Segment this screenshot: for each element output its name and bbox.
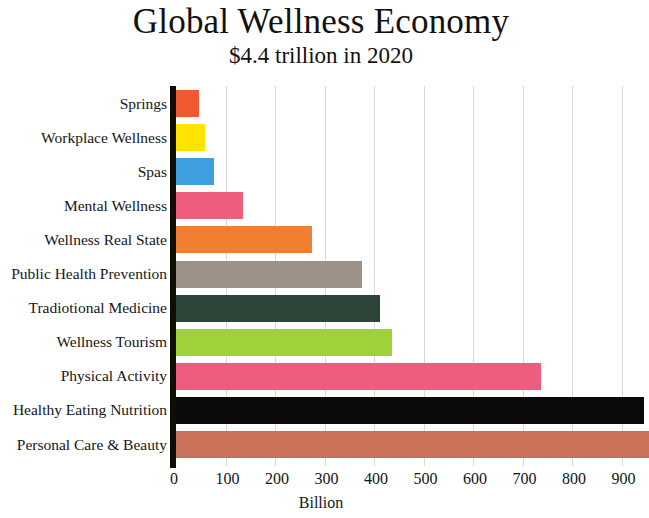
category-label: Tradiotional Medicine	[29, 298, 167, 318]
value-axis: Billion 0100200300400500600700800900	[0, 466, 642, 518]
category-label: Public Health Prevention	[11, 264, 167, 284]
bar-springs	[176, 90, 199, 117]
x-tick-label: 400	[351, 468, 401, 490]
bar-wellness-tourism	[176, 329, 392, 356]
x-axis-title: Billion	[0, 493, 642, 513]
x-tick-label: 600	[450, 468, 500, 490]
category-label: Spas	[138, 162, 167, 182]
bar-mental-wellness	[176, 192, 243, 219]
x-tick-label: 900	[599, 468, 649, 490]
x-tick-label: 500	[401, 468, 451, 490]
chart-subtitle: $4.4 trillion in 2020	[0, 42, 642, 69]
bar-healthy-eating-nutrition	[176, 397, 644, 424]
category-label: Wellness Tourism	[56, 332, 167, 352]
x-tick-label: 800	[549, 468, 599, 490]
plot-area	[176, 86, 642, 466]
page-title: Global Wellness Economy	[0, 2, 642, 42]
x-tick-label: 700	[500, 468, 550, 490]
x-tick-label: 300	[302, 468, 352, 490]
category-label: Mental Wellness	[64, 196, 167, 216]
category-axis-labels: SpringsWorkplace WellnessSpasMental Well…	[0, 86, 172, 470]
chart-title-block: Global Wellness Economy $4.4 trillion in…	[0, 2, 642, 69]
category-label: Wellness Real State	[44, 230, 167, 250]
category-label: Physical Activity	[61, 366, 167, 386]
bar-wellness-real-state	[176, 226, 312, 253]
bar-public-health-prevention	[176, 261, 362, 288]
plot-wrapper: SpringsWorkplace WellnessSpasMental Well…	[0, 86, 642, 470]
category-label: Workplace Wellness	[41, 128, 167, 148]
bar-workplace-wellness	[176, 124, 205, 151]
bar-physical-activity	[176, 363, 541, 390]
x-tick-label: 0	[149, 468, 199, 490]
bar-personal-care-beauty	[176, 431, 649, 458]
bar-spas	[176, 158, 214, 185]
category-label: Springs	[120, 94, 167, 114]
x-tick-label: 200	[252, 468, 302, 490]
x-tick-label: 100	[203, 468, 253, 490]
category-label: Healthy Eating Nutrition	[13, 400, 167, 420]
bar-tradiotional-medicine	[176, 295, 380, 322]
category-label: Personal Care & Beauty	[17, 435, 167, 455]
